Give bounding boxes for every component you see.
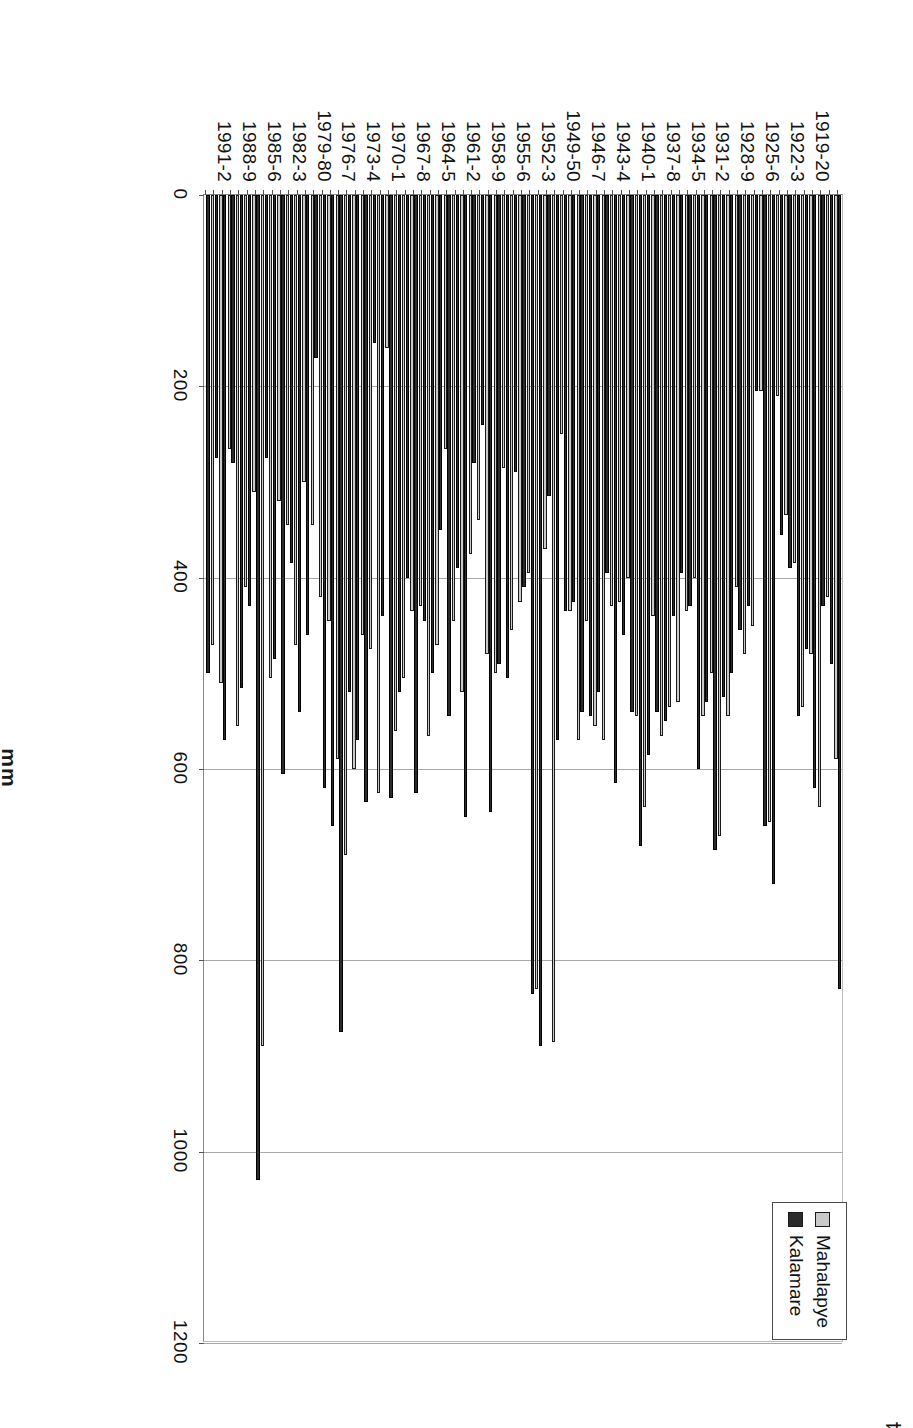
plot-wrapper: 020040060080010001200 1919-201922-31925-… (71, 194, 843, 1342)
chart-legend: Mahalapye Kalamare (772, 1202, 847, 1340)
category-axis-label: 1943-4 (611, 121, 633, 182)
category-axis-label: 1967-8 (412, 121, 434, 182)
category-axis-label: 1976-7 (337, 121, 359, 182)
category-axis-label: 1988-9 (237, 121, 259, 182)
category-axis-label: 1982-3 (287, 121, 309, 182)
legend-label-mahalapye: Mahalapye (812, 1235, 834, 1328)
legend-item-kalamare: Kalamare (785, 1212, 807, 1328)
category-axis-label: 1964-5 (437, 121, 459, 182)
category-axis-label: 1970-1 (387, 121, 409, 182)
category-axis-label: 1937-8 (661, 121, 683, 182)
category-axis-label: 1952-3 (536, 121, 558, 182)
category-axis-label: 1922-3 (786, 121, 808, 182)
category-axis-label: 1973-4 (362, 121, 384, 182)
figure-caption: Figure 4.1Annual rainfall, 1917–94 (881, 1422, 907, 1428)
legend-swatch-mahalapye-icon (815, 1212, 830, 1227)
category-axis-label: 1928-9 (736, 121, 758, 182)
figure-container: 020040060080010001200 1919-201922-31925-… (0, 0, 913, 1428)
value-axis-tick-label: 1000 (169, 1129, 191, 1173)
category-axis-label: 1991-2 (212, 121, 234, 182)
category-axis-label: 1955-6 (512, 121, 534, 182)
category-axis-label: 1985-6 (262, 121, 284, 182)
value-axis-tick-label: 800 (169, 943, 191, 976)
figure-caption-text: Annual rainfall, 1917–94 (881, 1422, 906, 1428)
category-axis-label: 1958-9 (487, 121, 509, 182)
category-axis-label: 1979-80 (312, 110, 334, 182)
category-axis-label: 1940-1 (636, 121, 658, 182)
legend-label-kalamare: Kalamare (785, 1235, 807, 1316)
value-axis-tick-label: 600 (169, 751, 191, 784)
category-axis-label: 1919-20 (811, 110, 833, 182)
legend-item-mahalapye: Mahalapye (812, 1212, 834, 1328)
category-axis-label: 1934-5 (686, 121, 708, 182)
category-axis-label: 1925-6 (761, 121, 783, 182)
value-axis-tick-label: 1200 (169, 1320, 191, 1364)
category-axis-label: 1946-7 (586, 121, 608, 182)
value-axis-tick-label: 400 (169, 560, 191, 593)
value-axis-tick-label: 0 (169, 188, 191, 199)
category-axis-label: 1961-2 (462, 121, 484, 182)
value-axis-tick (199, 1343, 204, 1344)
category-axis-label: 1931-2 (711, 121, 733, 182)
rotated-chart: 020040060080010001200 1919-201922-31925-… (57, 124, 857, 1304)
gridline (204, 1343, 842, 1344)
legend-swatch-kalamare-icon (788, 1212, 803, 1227)
value-axis-ticks: 020040060080010001200 (203, 194, 843, 1342)
category-axis-label: 1949-50 (561, 110, 583, 182)
value-axis-title: mm (0, 748, 21, 787)
value-axis-tick-label: 200 (169, 369, 191, 402)
